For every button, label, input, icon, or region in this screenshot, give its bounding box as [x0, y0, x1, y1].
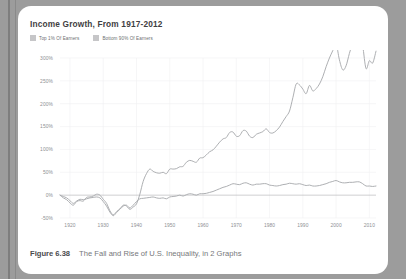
chart-legend: Top 1% Of Earners Bottom 90% Of Earners [30, 35, 153, 41]
x-axis-tick-label: 1970 [231, 223, 242, 228]
legend-item-top-1-percent: Top 1% Of Earners [30, 35, 79, 41]
x-axis-tick-label: 2010 [364, 223, 375, 228]
x-axis-tick-label: 1960 [197, 223, 208, 228]
y-axis-tick-label: 250% [40, 79, 53, 84]
chart-x-axis-labels: 1920193019401950196019701980199020002010 [64, 223, 375, 228]
figure-card-inner: Income Growth, From 1917-2012 Top 1% Of … [18, 6, 388, 274]
series-line-bottom-90-of-earners [60, 181, 376, 216]
income-growth-line-chart: -50%0%50%100%150%200%250%300% 1920193019… [18, 50, 388, 240]
x-axis-tick-label: 1980 [264, 223, 275, 228]
x-axis-tick-label: 1950 [164, 223, 175, 228]
y-axis-tick-label: 300% [40, 56, 53, 61]
chart-series-lines [60, 50, 376, 216]
y-axis-tick-label: 0% [46, 193, 54, 198]
legend-swatch-icon [93, 35, 99, 41]
chart-title: Income Growth, From 1917-2012 [30, 19, 163, 29]
legend-label-bottom-90-percent: Bottom 90% Of Earners [102, 36, 152, 41]
figure-caption: Figure 6.38 The Fall and Rise of U.S. In… [30, 249, 241, 258]
x-axis-tick-label: 2000 [330, 223, 341, 228]
x-axis-tick-label: 1930 [98, 223, 109, 228]
series-line-top-1-of-earners [60, 50, 376, 215]
chart-plot-area: -50%0%50%100%150%200%250%300% 1920193019… [18, 50, 388, 240]
page-left-rule [8, 0, 10, 279]
figure-caption-text: The Fall and Rise of U.S. Inequality, in… [79, 249, 241, 258]
x-axis-tick-label: 1920 [64, 223, 75, 228]
figure-caption-label: Figure 6.38 [30, 249, 70, 258]
page-left-rule-secondary [15, 0, 16, 279]
y-axis-tick-label: -50% [41, 216, 53, 221]
x-axis-tick-label: 1940 [131, 223, 142, 228]
legend-item-bottom-90-percent: Bottom 90% Of Earners [93, 35, 152, 41]
y-axis-tick-label: 200% [40, 102, 53, 107]
figure-card: Income Growth, From 1917-2012 Top 1% Of … [18, 6, 388, 274]
legend-swatch-icon [30, 35, 36, 41]
chart-gridlines [60, 58, 376, 218]
y-axis-tick-label: 100% [40, 147, 53, 152]
legend-label-top-1-percent: Top 1% Of Earners [39, 36, 79, 41]
y-axis-tick-label: 150% [40, 124, 53, 129]
x-axis-tick-label: 1990 [297, 223, 308, 228]
chart-y-axis-labels: -50%0%50%100%150%200%250%300% [40, 56, 53, 221]
y-axis-tick-label: 50% [43, 170, 54, 175]
